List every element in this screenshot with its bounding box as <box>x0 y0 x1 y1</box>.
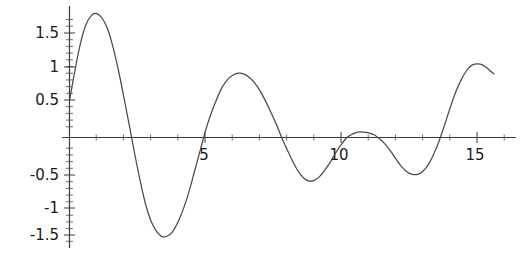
y-axis-tick-labels: 1.5 1 0.5 -0.5 -1 -1.5 <box>30 24 59 244</box>
y-tick-label-0-5: 0.5 <box>35 91 59 109</box>
y-tick-label-neg-1: -1 <box>44 199 59 217</box>
x-tick-label-15: 15 <box>465 146 484 164</box>
y-tick-label-1: 1 <box>49 58 59 76</box>
y-tick-label-neg-0-5: -0.5 <box>30 166 59 184</box>
chart-container: 1.5 1 0.5 -0.5 -1 -1.5 5 10 15 <box>0 0 520 257</box>
data-series-line <box>70 13 494 237</box>
x-axis-tick-labels: 5 10 15 <box>199 146 484 164</box>
y-tick-label-neg-1-5: -1.5 <box>30 226 59 244</box>
y-tick-label-1-5: 1.5 <box>35 24 59 42</box>
line-chart: 1.5 1 0.5 -0.5 -1 -1.5 5 10 15 <box>0 0 520 257</box>
